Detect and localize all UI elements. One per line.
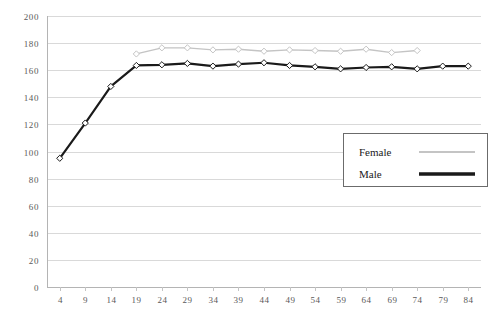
x-axis-tick-label: 84 [463,295,473,305]
data-point-marker [312,47,318,53]
x-axis-tick-label: 24 [157,295,167,305]
chart-container: 020406080100120140160180200 491419242934… [0,0,494,312]
y-axis-tick-label: 100 [24,148,39,158]
data-point-marker [312,64,318,70]
data-point-marker [414,66,420,72]
y-axis-tick-label: 140 [24,93,39,103]
x-axis-tick-label: 64 [361,295,371,305]
y-axis-group: 020406080100120140160180200 [24,12,39,293]
data-point-marker [210,47,216,53]
data-point-marker [286,47,292,53]
y-axis-tick-label: 20 [29,256,39,266]
y-axis-tick-label: 0 [34,283,39,293]
chart-legend: FemaleMale [344,134,488,187]
data-point-marker [363,46,369,52]
series-line [136,48,417,54]
x-axis-tick-label: 19 [131,295,141,305]
y-axis-tick-label: 160 [24,66,39,76]
data-point-marker [389,49,395,55]
x-axis-tick-label: 54 [310,295,320,305]
data-point-marker [235,61,241,67]
x-axis-tick-label: 14 [106,295,116,305]
data-point-marker [414,47,420,53]
x-axis-tick-label: 29 [182,295,192,305]
data-point-marker [337,66,343,72]
y-axis-tick-label: 80 [29,175,39,185]
data-point-marker [184,60,190,66]
data-point-marker [440,63,446,69]
y-axis-tick-label: 40 [29,229,39,239]
line-chart: 020406080100120140160180200 491419242934… [0,0,494,312]
series-female [133,45,420,57]
data-point-marker [337,48,343,54]
legend-item-label-male: Male [359,168,382,180]
x-axis-tick-label: 9 [83,295,88,305]
x-axis-tick-label: 44 [259,295,269,305]
data-point-marker [184,45,190,51]
x-axis-tick-label: 39 [233,295,243,305]
y-axis-tick-label: 120 [24,120,39,130]
x-axis-tick-label: 49 [285,295,295,305]
data-point-marker [235,46,241,52]
data-point-marker [261,60,267,66]
data-point-marker [286,62,292,68]
data-point-marker [389,64,395,70]
x-axis-tick-label: 74 [412,295,422,305]
y-axis-tick-label: 180 [24,39,39,49]
x-axis-tick-label: 79 [438,295,448,305]
data-point-marker [133,51,139,57]
data-point-marker [261,48,267,54]
data-point-marker [363,64,369,70]
data-point-marker [159,45,165,51]
data-point-marker [210,63,216,69]
x-axis-tick-label: 59 [336,295,346,305]
y-axis-tick-label: 200 [24,12,39,22]
legend-item-label-female: Female [359,146,391,158]
x-axis-tick-label: 34 [208,295,218,305]
x-axis-group: 49141924293439444954596469747984 [58,287,474,305]
data-point-marker [159,62,165,68]
y-axis-tick-label: 60 [29,202,39,212]
data-point-marker [465,63,471,69]
x-axis-tick-label: 69 [387,295,397,305]
x-axis-tick-label: 4 [58,295,63,305]
